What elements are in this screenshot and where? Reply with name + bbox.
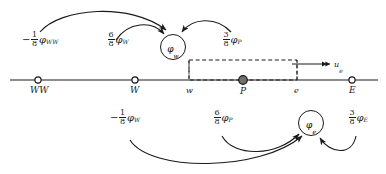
node-marker-e — [349, 77, 355, 83]
circled-face-value-phi-e: φe — [298, 110, 324, 136]
coefficient-phi-p-lower-fraction: 6 8 — [214, 109, 221, 126]
coefficient-phi-ww-sign: − — [22, 35, 30, 45]
coefficient-phi-w-upper-numerator: 6 — [108, 31, 115, 39]
node-label-ww: WW — [30, 86, 49, 95]
coefficient-phi-p-lower-numerator: 6 — [214, 109, 221, 117]
phi-w-content: φw — [167, 37, 178, 57]
coefficient-phi-w-lower: − 1 8 φW — [110, 109, 140, 126]
arc-phi-p-to-phi-e — [222, 134, 299, 152]
coefficient-phi-p-upper-fraction: 3 8 — [223, 31, 230, 48]
velocity-label: ue — [334, 54, 343, 72]
coefficient-phi-w-lower-subscript: W — [134, 117, 140, 123]
coefficient-phi-w-upper: 6 8 φW — [107, 31, 129, 48]
coefficient-phi-ww-phi: φ — [39, 35, 46, 45]
node-label-e: E — [349, 86, 356, 95]
coefficient-phi-ww-subscript: WW — [46, 39, 58, 45]
phi-e-content: φe — [306, 113, 316, 133]
coefficient-phi-ww-numerator: 1 — [31, 31, 38, 39]
arc-phi-w-to-phi-e — [130, 136, 302, 164]
arc-phi-e-to-phi-e — [320, 136, 356, 151]
coefficient-phi-e-lower-numerator: 3 — [349, 109, 356, 117]
node-label-w: W — [130, 86, 139, 95]
node-marker-ww — [35, 77, 41, 83]
phi-w-symbol: φ — [167, 44, 173, 54]
coefficient-phi-p-upper-numerator: 3 — [223, 31, 230, 39]
phi-e-subscript: e — [312, 128, 316, 135]
arc-phi-ww-to-phi-w — [40, 11, 166, 32]
coefficient-phi-e-lower-subscript: E — [364, 117, 368, 123]
phi-w-subscript: w — [174, 52, 179, 59]
circled-face-value-phi-w: φw — [160, 34, 186, 60]
coefficient-phi-p-lower: 6 8 φP — [213, 109, 233, 126]
coefficient-phi-w-upper-fraction: 6 8 — [108, 31, 115, 48]
coefficient-phi-p-upper-subscript: P — [238, 39, 242, 45]
coefficient-phi-ww-denominator: 8 — [31, 39, 38, 48]
coefficient-phi-w-lower-fraction: 1 8 — [119, 109, 126, 126]
velocity-subscript: e — [339, 67, 343, 74]
coefficient-phi-w-lower-denominator: 8 — [119, 117, 126, 126]
node-label-p: P — [240, 87, 246, 96]
diagram-vector-layer — [0, 0, 386, 174]
coefficient-phi-e-lower-fraction: 3 8 — [349, 109, 356, 126]
coefficient-phi-p-upper: 3 8 φP — [222, 31, 242, 48]
coefficient-phi-e-lower-denominator: 8 — [349, 117, 356, 126]
coefficient-phi-ww-fraction: 1 8 — [31, 31, 38, 48]
figure-canvas: WW W P E w e ue φw φe − 1 8 φWW 6 8 φW 3 — [0, 0, 386, 174]
coefficient-phi-p-lower-phi: φ — [222, 113, 229, 123]
coefficient-phi-e-lower-phi: φ — [357, 113, 364, 123]
coefficient-phi-w-upper-denominator: 8 — [108, 39, 115, 48]
coefficient-phi-w-upper-phi: φ — [116, 35, 123, 45]
coefficient-phi-e-lower: 3 8 φE — [348, 109, 368, 126]
face-label-w: w — [186, 87, 193, 95]
coefficient-phi-p-lower-denominator: 8 — [214, 117, 221, 126]
node-marker-p — [239, 76, 248, 85]
coefficient-phi-p-upper-denominator: 8 — [223, 39, 230, 48]
coefficient-phi-w-lower-phi: φ — [127, 113, 134, 123]
coefficient-phi-w-lower-numerator: 1 — [119, 109, 126, 117]
coefficient-phi-p-lower-subscript: P — [229, 117, 233, 123]
coefficient-phi-ww: − 1 8 φWW — [22, 31, 58, 48]
node-marker-w — [132, 77, 138, 83]
face-label-e: e — [294, 87, 299, 95]
coefficient-phi-p-upper-phi: φ — [231, 35, 238, 45]
coefficient-phi-w-upper-subscript: W — [123, 39, 129, 45]
coefficient-phi-w-lower-sign: − — [110, 113, 118, 123]
